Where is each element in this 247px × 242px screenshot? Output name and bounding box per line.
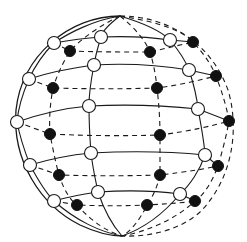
filled-node-icon	[142, 200, 153, 211]
filled-node-icon	[145, 47, 156, 58]
open-node-icon	[11, 116, 24, 129]
open-node-group	[11, 31, 212, 208]
filled-node-icon	[54, 170, 65, 181]
sphere-svg	[0, 0, 247, 242]
filled-node-icon	[65, 46, 76, 57]
open-node-icon	[88, 59, 101, 72]
filled-node-icon	[213, 161, 224, 172]
open-node-icon	[174, 188, 187, 201]
open-node-icon	[199, 149, 212, 162]
filled-node-group	[45, 37, 235, 211]
open-node-icon	[85, 147, 98, 160]
sphere-lattice-diagram	[0, 0, 247, 242]
open-node-icon	[95, 31, 108, 44]
open-node-icon	[83, 100, 96, 113]
open-node-icon	[192, 103, 205, 116]
open-node-icon	[24, 159, 37, 172]
filled-node-icon	[224, 116, 235, 127]
filled-node-icon	[155, 130, 166, 141]
open-node-icon	[48, 195, 61, 208]
filled-node-icon	[72, 200, 83, 211]
filled-node-icon	[152, 83, 163, 94]
filled-node-icon	[211, 71, 222, 82]
filled-node-icon	[190, 196, 201, 207]
open-node-icon	[48, 37, 61, 50]
open-node-icon	[164, 34, 177, 47]
filled-node-icon	[48, 83, 59, 94]
meridian-front-left	[89, 16, 122, 236]
filled-node-icon	[45, 129, 56, 140]
open-node-icon	[92, 186, 105, 199]
filled-node-icon	[188, 37, 199, 48]
open-node-icon	[23, 73, 36, 86]
filled-node-icon	[155, 170, 166, 181]
latitude-4-front	[30, 152, 218, 166]
open-node-icon	[183, 64, 196, 77]
